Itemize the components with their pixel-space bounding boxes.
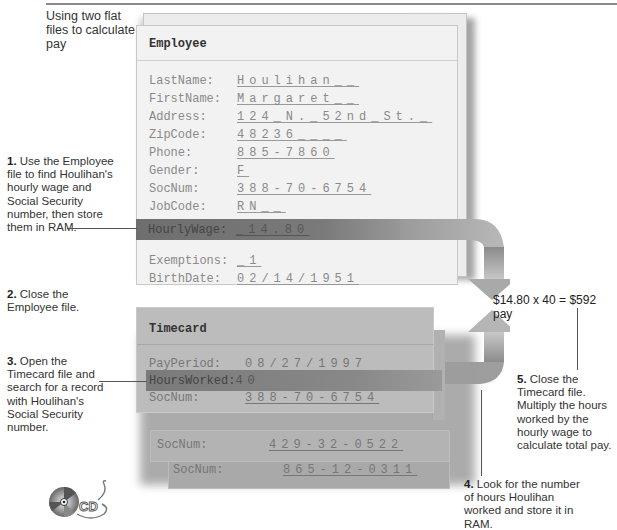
field-label: HoursWorked: <box>149 374 235 388</box>
field-value: Margaret__ <box>237 92 359 106</box>
field-value: RN__ <box>237 200 286 214</box>
field-value: 865-12-0311 <box>283 463 417 477</box>
field-value: 02/14/1951 <box>237 272 359 286</box>
arrow-down-icon <box>400 212 510 304</box>
hours-worked-row: HoursWorked:40 <box>149 371 260 391</box>
pay-equation: $14.80 x 40 = $592 pay <box>493 293 617 321</box>
field-label: JobCode: <box>149 199 237 216</box>
step-text: Close the Employee file. <box>7 288 79 313</box>
figure-caption: Using two flat files to calculate pay <box>46 9 146 51</box>
field-label: SocNum: <box>173 462 283 479</box>
employee-field-row: SocNum:388-70-6754 <box>149 181 371 198</box>
field-label: FirstName: <box>149 91 237 108</box>
field-value: 124_N._52nd_St._ <box>237 110 432 124</box>
employee-field-row: Exemptions:_1 <box>149 253 261 270</box>
employee-field-row: Phone:885-7860 <box>149 145 335 162</box>
cd-icon: CD <box>46 478 116 524</box>
employee-field-row: FirstName:Margaret__ <box>149 91 359 108</box>
step-5-note: 5. Close the Timecard file. Multiply the… <box>517 373 617 452</box>
field-label: ZipCode: <box>149 127 237 144</box>
field-value: 388-70-6754 <box>237 182 371 196</box>
step-4-leader <box>481 390 482 476</box>
field-value: 40 <box>235 374 259 388</box>
employee-field-row: JobCode:RN__ <box>149 199 286 216</box>
field-label: Gender: <box>149 163 237 180</box>
cd-logo-text: CD <box>79 499 98 514</box>
field-value: _14.80 <box>236 223 309 237</box>
step-number: 2. <box>7 288 17 300</box>
field-value: 885-7860 <box>237 146 335 160</box>
record-row: SocNum:429-32-0522 <box>157 437 403 454</box>
field-label: BirthDate: <box>149 271 237 288</box>
top-rule <box>46 3 617 5</box>
step-4-note: 4. Look for the number of hours Houlihan… <box>464 478 584 530</box>
step-1-note: 1. Use the Employee file to find Houliha… <box>7 155 117 234</box>
step-text: Close the Timecard file. Multiply the ho… <box>517 373 611 451</box>
step-5-leader <box>577 308 578 370</box>
field-value: 08/27/1997 <box>245 357 367 371</box>
step-number: 5. <box>517 373 527 385</box>
record-row: SocNum:865-12-0311 <box>173 462 417 479</box>
employee-field-row: BirthDate:02/14/1951 <box>149 271 359 288</box>
step-text: Use the Employee file to find Houlihan's… <box>7 155 114 233</box>
divider <box>137 60 457 61</box>
divider <box>137 344 433 345</box>
timecard-file-panel: Timecard PayPeriod:08/27/1997 SocNum:388… <box>136 307 434 413</box>
step-3-note: 3. Open the Timecard file and search for… <box>7 355 107 434</box>
field-label: LastName: <box>149 73 237 90</box>
step-number: 3. <box>7 355 17 367</box>
employee-field-row: Gender:F <box>149 163 249 180</box>
field-label: SocNum: <box>149 181 237 198</box>
step-text: Open the Timecard file and search for a … <box>7 355 104 433</box>
employee-field-row: Address:124_N._52nd_St._ <box>149 109 432 126</box>
field-value: Houlihan__ <box>237 74 359 88</box>
step-number: 4. <box>464 478 474 490</box>
step-1-leader <box>67 228 137 229</box>
field-label: Phone: <box>149 145 237 162</box>
field-value: 429-32-0522 <box>269 438 403 452</box>
step-text: Look for the number of hours Houlihan wo… <box>464 478 580 530</box>
field-value: F <box>237 164 249 178</box>
field-label: Exemptions: <box>149 253 237 270</box>
step-2-note: 2. Close the Employee file. <box>7 288 117 314</box>
timecard-file-title: Timecard <box>149 322 207 336</box>
field-label: SocNum: <box>149 390 245 407</box>
timecard-record-2: SocNum:429-32-0522 <box>150 430 450 462</box>
step-3-leader <box>99 381 147 382</box>
step-number: 1. <box>7 155 17 167</box>
soc-num-row: SocNum:388-70-6754 <box>149 390 379 407</box>
field-label: SocNum: <box>157 437 269 454</box>
employee-field-row: LastName:Houlihan__ <box>149 73 359 90</box>
field-label: HourlyWage: <box>148 220 236 240</box>
hourly-wage-row: HourlyWage:_14.80 <box>148 220 309 240</box>
field-value: 48236____ <box>237 128 347 142</box>
field-value: 388-70-6754 <box>245 391 379 405</box>
field-value: _1 <box>237 254 261 268</box>
employee-file-title: Employee <box>149 37 207 51</box>
field-label: Address: <box>149 109 237 126</box>
employee-field-row: ZipCode:48236____ <box>149 127 347 144</box>
